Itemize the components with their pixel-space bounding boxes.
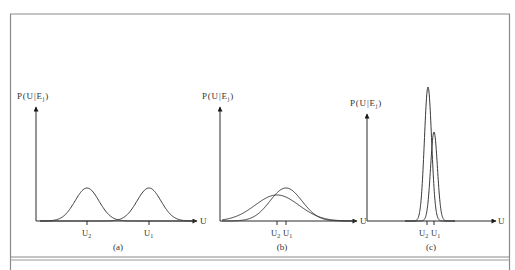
distribution-curve-u1 [222, 188, 356, 221]
panel-c: P(U|Ej) U U2 U1 (c) [350, 87, 505, 252]
panel-b: P(U|Ej) U U2 U1 (b) [202, 91, 367, 252]
y-axis-label: P(U|Ej) [350, 98, 382, 109]
panel-caption: (b) [277, 242, 288, 252]
figure-canvas: P(U|Ej) U U2 U1 (a) P(U|Ej) U U2 U1 (b) … [0, 0, 515, 270]
u1-label: U1 [431, 228, 440, 239]
distribution-curve-u2 [222, 195, 356, 221]
y-axis-label: P(U|Ej) [202, 91, 234, 102]
u2-label: U2 [419, 228, 428, 239]
x-axis-label: U [360, 216, 367, 226]
y-axis-label: P(U|Ej) [17, 91, 49, 102]
x-axis-label: U [498, 216, 505, 226]
x-axis-label: U [200, 216, 207, 226]
panel-caption: (c) [426, 242, 436, 252]
distribution-curve-u2 [405, 87, 455, 221]
u1-label: U1 [283, 228, 292, 239]
panel-a: P(U|Ej) U U2 U1 (a) [17, 91, 207, 252]
u1-label: U1 [144, 228, 153, 239]
u2-label: U2 [82, 228, 91, 239]
u2-label: U2 [271, 228, 280, 239]
panel-caption: (a) [113, 242, 123, 252]
distribution-curve-u1 [405, 132, 455, 221]
